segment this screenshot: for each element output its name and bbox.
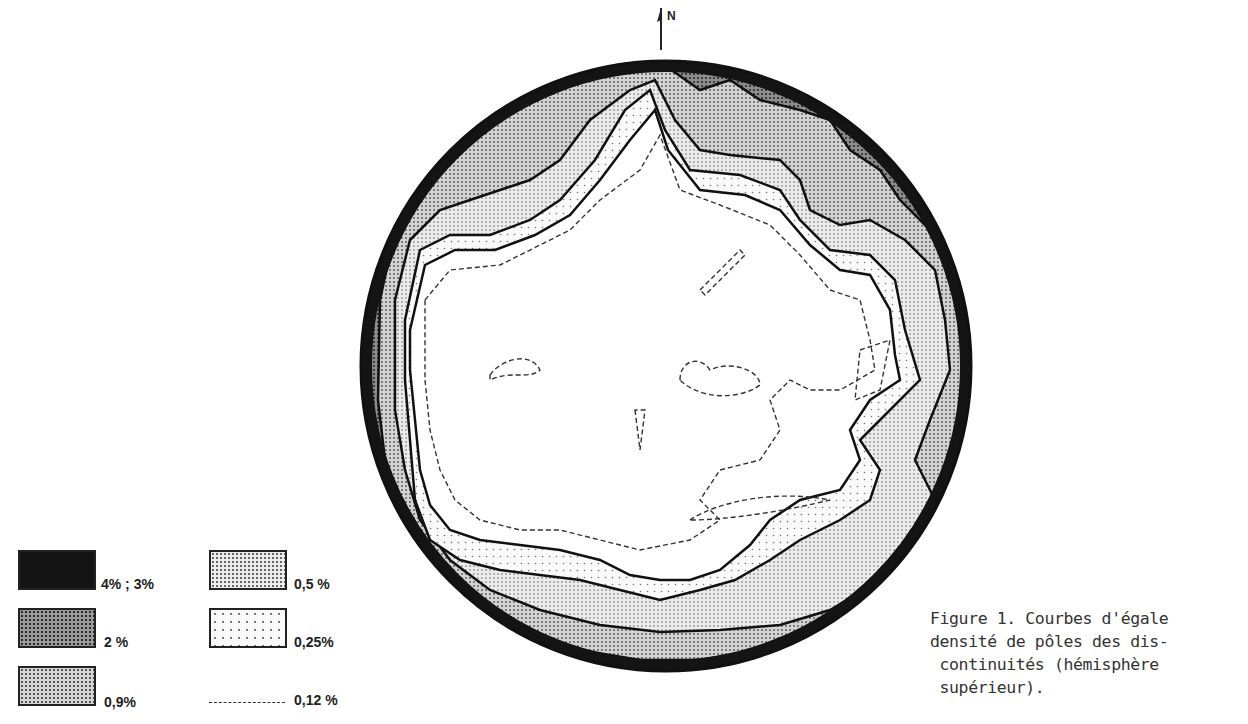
density-contours [360,60,972,672]
caption-line: continuités (hémisphère [930,653,1248,676]
legend-swatch-0-12-percent [209,702,285,703]
legend-swatch-0-5-percent [209,550,287,590]
legend-label-0-5-percent: 0,5 % [294,576,330,592]
figure-caption: Figure 1. Courbes d'égale densité de pôl… [930,607,1248,699]
legend-label-0-12-percent: 0,12 % [294,692,338,708]
legend-label-0-25-percent: 0,25% [294,634,334,650]
caption-line: supérieur). [930,676,1248,699]
north-label: N [667,9,676,23]
legend-swatch-4-3-percent [18,550,96,590]
north-arrow-icon [657,8,661,50]
legend-label-0-9-percent: 0,9% [104,694,136,710]
caption-line: densité de pôles des dis- [930,630,1248,653]
caption-line: Figure 1. Courbes d'égale [930,607,1248,630]
legend-label-4-3-percent: 4% ; 3% [101,576,154,592]
legend-swatch-2-percent [18,608,96,648]
legend-label-2-percent: 2 % [104,634,128,650]
legend-swatch-0-25-percent [209,608,287,648]
legend-swatch-0-9-percent [18,666,96,706]
